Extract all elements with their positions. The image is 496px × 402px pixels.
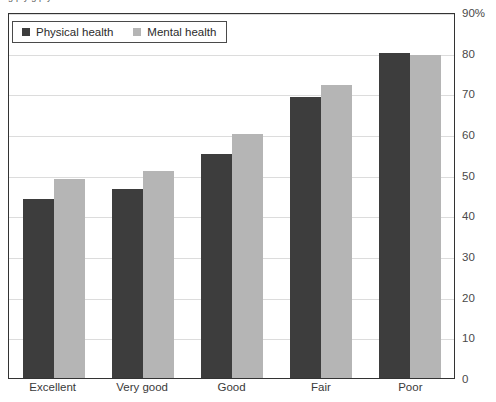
bar-fair-mental[interactable] — [321, 85, 352, 378]
legend-item-physical[interactable]: Physical health — [22, 26, 113, 38]
y-axis-tick-label: 70 — [462, 88, 475, 100]
legend-swatch-physical-icon — [22, 28, 30, 36]
bar-groups — [9, 14, 454, 378]
chart-legend: Physical healthMental health — [12, 21, 227, 43]
y-axis-tick-label: 20 — [462, 292, 475, 304]
bar-poor-physical[interactable] — [379, 53, 410, 378]
bar-very-good-physical[interactable] — [112, 189, 143, 378]
bar-excellent-mental[interactable] — [54, 179, 85, 378]
bar-very-good-mental[interactable] — [143, 171, 174, 378]
legend-label: Physical health — [36, 26, 113, 38]
bar-group — [276, 14, 365, 378]
bar-fair-physical[interactable] — [290, 97, 321, 378]
x-axis-tick-label: Poor — [366, 381, 455, 393]
x-axis-tick-label: Excellent — [8, 381, 97, 393]
y-axis-tick-label: 90% — [462, 7, 485, 19]
x-axis-tick-label: Very good — [97, 381, 186, 393]
legend-swatch-mental-icon — [133, 28, 141, 36]
bar-group — [9, 14, 98, 378]
bar-excellent-physical[interactable] — [23, 199, 54, 378]
legend-label: Mental health — [147, 26, 216, 38]
x-axis-labels: ExcellentVery goodGoodFairPoor — [8, 381, 455, 393]
grouped-bar-chart: Physical healthMental health 01020304050… — [0, 0, 496, 402]
bar-good-mental[interactable] — [232, 134, 263, 378]
x-axis-tick-label: Good — [187, 381, 276, 393]
y-axis-tick-label: 40 — [462, 210, 475, 222]
plot-area — [8, 13, 455, 379]
y-axis-tick-label: 60 — [462, 129, 475, 141]
bar-poor-mental[interactable] — [410, 55, 441, 378]
legend-item-mental[interactable]: Mental health — [133, 26, 216, 38]
bar-good-physical[interactable] — [201, 154, 232, 378]
bar-group — [98, 14, 187, 378]
y-axis-tick-label: 0 — [462, 373, 468, 385]
y-axis-tick-label: 10 — [462, 332, 475, 344]
y-axis-tick-label: 50 — [462, 170, 475, 182]
bar-group — [365, 14, 454, 378]
y-axis-tick-label: 80 — [462, 48, 475, 60]
y-axis-tick-label: 30 — [462, 251, 475, 263]
y-axis-labels: 0102030405060708090% — [462, 13, 496, 379]
bar-group — [187, 14, 276, 378]
x-axis-tick-label: Fair — [276, 381, 365, 393]
